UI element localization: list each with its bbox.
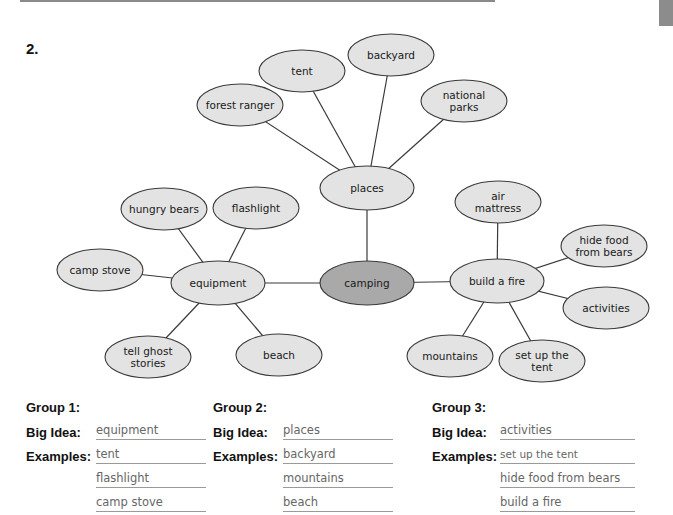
example-field[interactable]: build a fire [500, 494, 635, 512]
leaf-node: set up thetent [499, 340, 585, 382]
group-title: Group 1: [26, 400, 80, 415]
big-idea-label: Big Idea: [26, 425, 81, 440]
example-field[interactable]: mountains [283, 470, 393, 488]
node-label: hide food [579, 234, 628, 246]
node-label: tent [531, 361, 552, 373]
node-label: beach [263, 349, 295, 361]
leaf-node: hungry bears [121, 188, 207, 230]
example-field[interactable]: flashlight [96, 470, 206, 488]
node-label: equipment [190, 277, 247, 289]
leaf-node: backyard [348, 34, 434, 76]
node-label: places [350, 182, 384, 194]
concept-web-diagram: campingplacesequipmentbuild a firetentba… [0, 0, 673, 400]
leaf-node: hide foodfrom bears [561, 225, 647, 267]
big-idea-field[interactable]: places [283, 422, 393, 440]
big-idea-label: Big Idea: [432, 425, 487, 440]
big-idea-field[interactable]: activities [500, 422, 635, 440]
hub-node-build-a-fire: build a fire [450, 259, 544, 303]
node-label: backyard [367, 49, 415, 61]
leaf-node: forest ranger [197, 84, 283, 126]
group-title: Group 3: [432, 400, 486, 415]
nodes: campingplacesequipmentbuild a firetentba… [57, 34, 649, 382]
leaf-node: nationalparks [421, 80, 507, 122]
node-label: set up the [515, 349, 568, 361]
big-idea-field[interactable]: equipment [96, 422, 206, 440]
hub-node-places: places [320, 166, 414, 210]
node-label: from bears [575, 246, 632, 258]
node-label: camping [344, 277, 389, 289]
leaf-node: mountains [407, 335, 493, 377]
example-field[interactable]: tent [96, 446, 206, 464]
node-label: national [443, 89, 486, 101]
node-label: parks [450, 101, 479, 113]
node-label: flashlight [232, 202, 280, 214]
leaf-node: activities [563, 287, 649, 329]
center-node-camping: camping [320, 261, 414, 305]
hub-node-equipment: equipment [171, 261, 265, 305]
leaf-node: beach [236, 334, 322, 376]
examples-label: Examples: [26, 449, 91, 464]
leaf-node: tent [259, 50, 345, 92]
node-label: tell ghost [123, 345, 172, 357]
examples-label: Examples: [432, 449, 497, 464]
node-label: forest ranger [206, 99, 275, 111]
node-label: camp stove [69, 264, 130, 276]
leaf-node: flashlight [213, 187, 299, 229]
leaf-node: airmattress [455, 181, 541, 223]
example-field[interactable]: backyard [283, 446, 393, 464]
example-field[interactable]: camp stove [96, 494, 206, 512]
example-field[interactable]: hide food from bears [500, 470, 635, 488]
example-field[interactable]: set up the tent [500, 446, 635, 464]
node-label: build a fire [469, 275, 525, 287]
node-label: air [491, 190, 505, 202]
node-label: stories [130, 357, 165, 369]
group-title: Group 2: [213, 400, 267, 415]
node-label: hungry bears [129, 203, 199, 215]
leaf-node: camp stove [57, 249, 143, 291]
leaf-node: tell ghoststories [105, 336, 191, 378]
examples-label: Examples: [213, 449, 278, 464]
big-idea-label: Big Idea: [213, 425, 268, 440]
node-label: activities [582, 302, 629, 314]
node-label: mattress [475, 202, 521, 214]
node-label: mountains [422, 350, 478, 362]
groups-section: Group 1: Big Idea: equipment Examples: t… [0, 400, 673, 515]
example-field[interactable]: beach [283, 494, 393, 512]
node-label: tent [291, 65, 312, 77]
